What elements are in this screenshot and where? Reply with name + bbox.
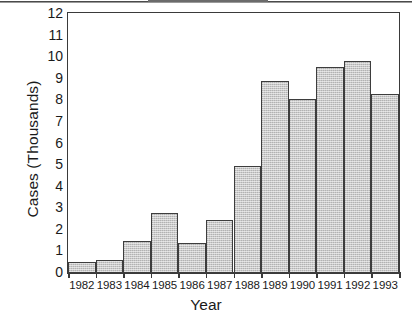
x-tick-mark xyxy=(151,273,153,278)
x-tick-mark xyxy=(96,273,98,278)
x-tick-label: 1985 xyxy=(152,279,177,291)
x-axis-tick-labels: 1982198319841985198619871988198919901991… xyxy=(68,279,399,295)
x-tick-mark xyxy=(371,273,373,278)
x-tick-label: 1990 xyxy=(290,279,315,291)
x-tick-label: 1984 xyxy=(124,279,149,291)
x-tick-mark xyxy=(344,273,346,278)
x-tick-label: 1987 xyxy=(207,279,232,291)
x-tick-mark xyxy=(178,273,180,278)
x-tick-label: 1983 xyxy=(97,279,122,291)
x-tick-mark xyxy=(316,273,318,278)
x-axis-tick-marks xyxy=(0,0,412,323)
x-tick-label: 1992 xyxy=(345,279,370,291)
x-tick-mark xyxy=(234,273,236,278)
x-tick-label: 1986 xyxy=(180,279,205,291)
x-tick-mark xyxy=(289,273,291,278)
x-tick-mark xyxy=(399,273,401,278)
x-tick-mark xyxy=(68,273,70,278)
x-tick-mark xyxy=(261,273,263,278)
x-tick-label: 1993 xyxy=(373,279,398,291)
x-tick-label: 1991 xyxy=(317,279,342,291)
x-tick-label: 1982 xyxy=(69,279,94,291)
x-axis-title: Year xyxy=(0,296,412,314)
bar-chart: Cases (Thousands) 0123456789101112 19821… xyxy=(0,0,412,323)
x-tick-label: 1988 xyxy=(235,279,260,291)
x-tick-label: 1989 xyxy=(262,279,287,291)
x-tick-mark xyxy=(123,273,125,278)
x-tick-mark xyxy=(206,273,208,278)
